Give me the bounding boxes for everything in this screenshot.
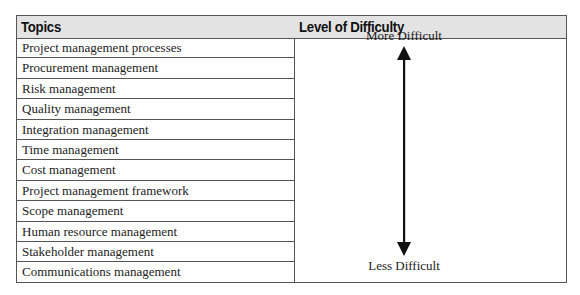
table-row: Project management framework xyxy=(17,181,294,201)
table-row: Cost management xyxy=(17,160,294,180)
topic-cell: Human resource management xyxy=(22,224,177,240)
topic-cell: Communications management xyxy=(22,264,181,280)
table-row: Scope management xyxy=(17,201,294,221)
table-row: Communications management xyxy=(17,262,294,282)
topic-cell: Integration management xyxy=(22,122,149,138)
topic-cell: Project management processes xyxy=(22,40,182,56)
topics-column: Project management processes Procurement… xyxy=(17,38,294,283)
topic-cell: Procurement management xyxy=(22,60,158,76)
topic-cell: Stakeholder management xyxy=(22,244,154,260)
topic-cell: Time management xyxy=(22,142,119,158)
column-divider xyxy=(294,38,295,283)
topic-cell: Quality management xyxy=(22,101,131,117)
header-topics: Topics xyxy=(21,18,61,35)
less-difficult-label: Less Difficult xyxy=(339,258,469,274)
table-header: Topics Level of Difficulty xyxy=(17,16,566,39)
topic-cell: Project management framework xyxy=(22,183,189,199)
table-row: Procurement management xyxy=(17,58,294,78)
topic-cell: Scope management xyxy=(22,203,123,219)
table-row: Stakeholder management xyxy=(17,242,294,262)
table-row: Project management processes xyxy=(17,38,294,58)
difficulty-table: Topics Level of Difficulty Project manag… xyxy=(16,15,567,283)
table-row: Quality management xyxy=(17,99,294,119)
table-row: Integration management xyxy=(17,120,294,140)
double-headed-arrow-icon xyxy=(393,46,415,256)
topic-cell: Risk management xyxy=(22,81,116,97)
table-row: Human resource management xyxy=(17,222,294,242)
more-difficult-label: More Difficult xyxy=(339,28,469,44)
table-row: Risk management xyxy=(17,79,294,99)
table-row: Time management xyxy=(17,140,294,160)
topic-cell: Cost management xyxy=(22,162,116,178)
